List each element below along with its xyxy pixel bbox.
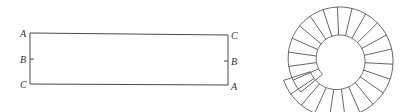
diagram-canvas: A B C C B A — [0, 0, 417, 112]
spiral-rung — [330, 89, 334, 112]
spiral-rung — [346, 9, 353, 36]
spiral-rung — [301, 84, 319, 105]
spiral-rung — [362, 35, 387, 49]
spiral-rung — [365, 63, 393, 64]
spiral-rung — [291, 78, 314, 94]
spiral-rung — [358, 23, 378, 43]
spiral-rung — [337, 7, 338, 35]
spiral-rung — [323, 10, 332, 37]
spiral-inner-edge — [310, 35, 365, 90]
spiral-rung — [310, 16, 326, 39]
spiral-strip — [284, 7, 393, 112]
spiral-rung — [315, 88, 327, 112]
spiral-rung — [341, 89, 345, 112]
label-right-c: C — [231, 30, 238, 41]
spiral-rung — [352, 14, 366, 38]
spiral-rung — [355, 83, 373, 105]
spiral-rung — [289, 52, 317, 56]
label-left-a: A — [19, 28, 27, 39]
spiral-rung — [300, 26, 322, 44]
spiral-rung — [284, 72, 311, 81]
spiral-rung — [289, 63, 317, 67]
spiral-rung — [364, 70, 391, 79]
spiral-rung — [293, 69, 319, 80]
rectangle-strip: A B C C B A — [19, 28, 238, 92]
spiral-rung — [292, 38, 318, 49]
label-left-c: C — [20, 79, 27, 90]
label-left-b: B — [20, 54, 26, 65]
spiral-rung — [360, 77, 383, 93]
spiral-rung — [364, 49, 391, 55]
strip-outline — [30, 33, 228, 85]
label-right-b: B — [231, 56, 237, 67]
label-right-a: A — [230, 81, 238, 92]
spiral-rung — [349, 87, 360, 112]
